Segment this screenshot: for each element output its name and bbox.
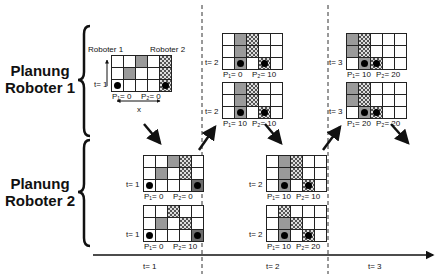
grid-cell	[259, 58, 270, 69]
grid-cell	[271, 95, 282, 106]
grid-cell	[223, 83, 234, 94]
grid-cell	[291, 230, 302, 241]
grid-cell	[168, 218, 179, 229]
grid-cell	[247, 58, 258, 69]
priority-1-label: P₁= 10	[223, 119, 247, 128]
priority-1-label: P₁= 10	[267, 242, 291, 251]
grid-r2-t2-b	[266, 205, 327, 242]
grid-cell	[279, 156, 290, 167]
grid-cell	[247, 107, 258, 118]
grid-cell	[371, 58, 382, 69]
grid-cell	[271, 107, 282, 118]
grid-cell	[371, 34, 382, 45]
grid-cell	[235, 95, 246, 106]
timeline-tick-2: t= 2	[266, 262, 280, 271]
priority-1-label: P₁= 10	[347, 70, 371, 79]
grid-cell	[271, 34, 282, 45]
priority-1-label: P₁= 0	[223, 70, 242, 79]
priority-2-label: P₂= 20	[296, 242, 320, 251]
grid-cell	[180, 218, 191, 229]
grid-cell	[347, 58, 358, 69]
grid-cell	[315, 156, 326, 167]
grid-cell	[347, 107, 358, 118]
grid-cell	[315, 206, 326, 217]
priority-2-label: P₂= 10	[296, 192, 320, 201]
grid-cell	[347, 95, 358, 106]
grid-cell	[267, 218, 278, 229]
grid-cell	[315, 230, 326, 241]
grid-cell	[235, 83, 246, 94]
grid-cell	[156, 206, 167, 217]
grid-cell	[395, 107, 406, 118]
time-label: t= 1	[126, 180, 140, 189]
grid-cell	[383, 107, 394, 118]
grid-cell	[160, 56, 171, 67]
robot-1-icon	[146, 232, 153, 239]
grid-cell	[359, 46, 370, 57]
grid-cell	[279, 206, 290, 217]
grid-cell	[192, 206, 203, 217]
grid-cell	[144, 168, 155, 179]
time-label: t= 1	[94, 80, 108, 89]
grid-cell	[144, 180, 155, 191]
grid-cell	[303, 168, 314, 179]
grid-cell	[267, 180, 278, 191]
grid-cell	[156, 156, 167, 167]
grid-cell	[223, 107, 234, 118]
grid-cell	[168, 168, 179, 179]
grid-cell	[168, 230, 179, 241]
grid-cell	[303, 230, 314, 241]
grid-cell	[192, 230, 203, 241]
priority-2-label: P₂= 10	[252, 70, 276, 79]
time-label: t= 3	[329, 107, 343, 116]
grid-cell	[223, 46, 234, 57]
grid-cell	[371, 83, 382, 94]
grid-cell	[136, 80, 147, 91]
priority-2-label: P₂= 20	[376, 70, 400, 79]
grid-cell	[148, 68, 159, 79]
grid-cell	[192, 168, 203, 179]
grid-cell	[291, 180, 302, 191]
grid-cell	[247, 83, 258, 94]
robot-1-icon	[237, 60, 244, 67]
grid-cell	[160, 80, 171, 91]
priority-1-label: P₁= 0	[112, 92, 131, 101]
grid-cell	[124, 68, 135, 79]
robot-1-icon	[237, 109, 244, 116]
grid-cell	[247, 34, 258, 45]
grid-cell	[192, 180, 203, 191]
grid-cell	[291, 156, 302, 167]
robot-2-icon	[194, 232, 201, 239]
grid-cell	[395, 95, 406, 106]
grid-cell	[180, 180, 191, 191]
grid-cell	[223, 95, 234, 106]
robot-1-icon	[361, 109, 368, 116]
grid-cell	[156, 218, 167, 229]
grid-cell	[347, 83, 358, 94]
grid-cell	[156, 230, 167, 241]
grid-cell	[359, 58, 370, 69]
grid-cell	[383, 46, 394, 57]
priority-1-label: P₁= 10	[267, 192, 291, 201]
grid-cell	[347, 46, 358, 57]
grid-cell	[144, 206, 155, 217]
time-label: t= 2	[205, 58, 219, 67]
grid-cell	[136, 56, 147, 67]
brace-icon	[78, 26, 90, 246]
grid-r2-t2-a	[266, 155, 327, 192]
grid-cell	[144, 156, 155, 167]
priority-2-label: P₂= 10	[252, 119, 276, 128]
grid-cell	[180, 206, 191, 217]
grid-cell	[271, 83, 282, 94]
priority-1-label: P₁= 20	[347, 119, 371, 128]
priority-2-label: P₂= 0	[173, 192, 193, 201]
grid-r1-t3-a	[346, 33, 407, 70]
grid-cell	[160, 68, 171, 79]
grid-cell	[259, 34, 270, 45]
grid-cell	[156, 168, 167, 179]
time-label: t= 2	[205, 107, 219, 116]
grid-cell	[192, 156, 203, 167]
grid-cell	[259, 83, 270, 94]
grid-cell	[259, 107, 270, 118]
time-label: t= 3	[329, 58, 343, 67]
